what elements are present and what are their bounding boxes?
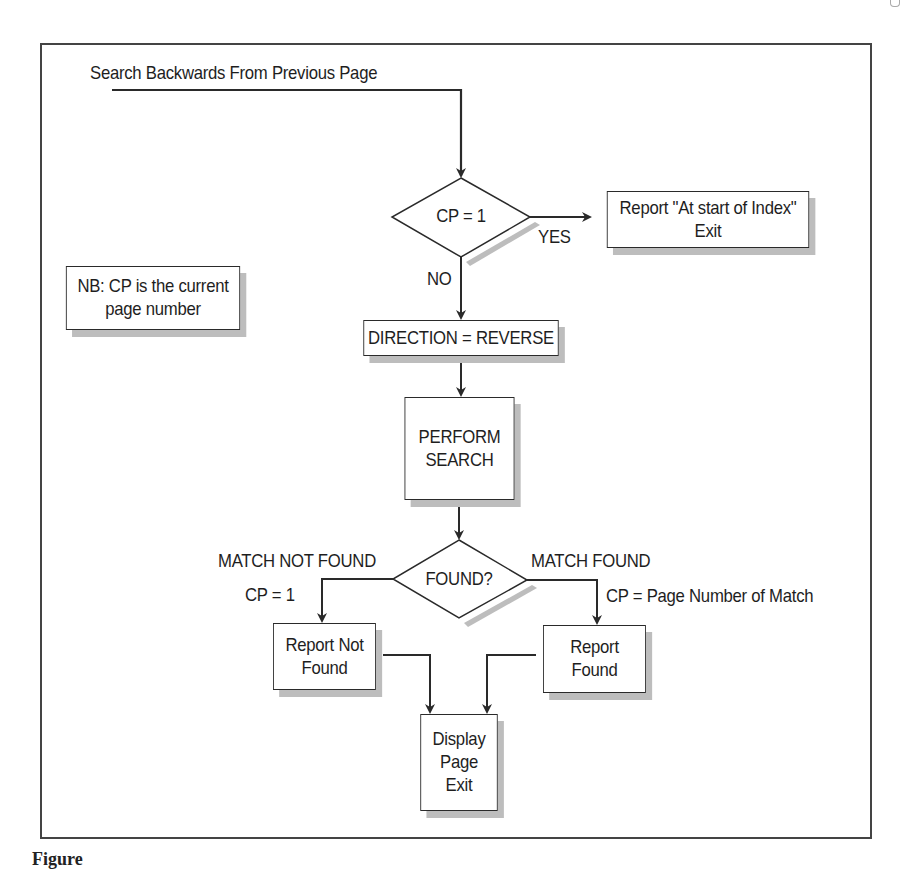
- entry-label: Search Backwards From Previous Page: [90, 62, 377, 84]
- note-box: NB: CP is the current page number: [66, 266, 240, 330]
- match-found-label: MATCH FOUND: [531, 550, 650, 572]
- display-page-box: Display Page Exit: [420, 714, 497, 811]
- no-label: NO: [427, 268, 452, 290]
- found-to-display-connector: [487, 655, 536, 712]
- cp-equals-1-label: CP = 1: [245, 584, 295, 606]
- perform-search-line1: PERFORM: [419, 426, 501, 449]
- at-start-of-index-box: Report "At start of Index" Exit: [607, 191, 809, 248]
- cp-page-number-label: CP = Page Number of Match: [606, 585, 813, 607]
- not-found-connector: [322, 579, 393, 621]
- perform-search-box: PERFORM SEARCH: [405, 397, 515, 500]
- display-line1: Display: [433, 728, 486, 751]
- display-line2: Page: [440, 751, 478, 774]
- perform-search-line2: SEARCH: [425, 449, 493, 472]
- entry-connector: [112, 90, 461, 176]
- decision-cp-text: CP = 1: [436, 205, 486, 227]
- report-found-box: Report Found: [543, 625, 646, 693]
- at-start-line2: Exit: [695, 220, 722, 243]
- at-start-line1: Report "At start of Index": [620, 197, 797, 220]
- figure-caption: Figure: [32, 849, 83, 870]
- display-line3: Exit: [446, 774, 473, 797]
- found-connector: [527, 580, 597, 623]
- report-not-found-line2: Found: [301, 657, 347, 680]
- note-line2: page number: [105, 298, 201, 321]
- direction-text: DIRECTION = REVERSE: [368, 327, 554, 350]
- report-found-line2: Found: [571, 659, 617, 682]
- yes-label: YES: [538, 226, 571, 248]
- not-found-to-display-connector: [383, 655, 430, 712]
- report-found-line1: Report: [570, 636, 619, 659]
- decision-found-text: FOUND?: [425, 568, 492, 590]
- report-not-found-box: Report Not Found: [273, 623, 376, 690]
- note-line1: NB: CP is the current: [77, 275, 228, 298]
- report-not-found-line1: Report Not: [285, 634, 363, 657]
- direction-reverse-box: DIRECTION = REVERSE: [363, 320, 558, 356]
- match-not-found-label: MATCH NOT FOUND: [218, 550, 376, 572]
